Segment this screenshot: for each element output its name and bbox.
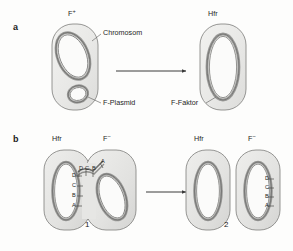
stage-number-2: 2 xyxy=(224,221,228,229)
chromosome-label: Chromosom xyxy=(103,29,142,36)
recipient-gene-c: C xyxy=(265,185,269,191)
donor-gene-b: B xyxy=(72,193,76,199)
panel-letter-b: b xyxy=(13,134,19,144)
donor-gene-a: A xyxy=(72,203,76,209)
f-plus-cell-shape xyxy=(49,24,98,110)
f-minus-result-label: F− xyxy=(248,135,256,142)
f-plus-cell-label: F+ xyxy=(68,10,76,17)
bridge-gene-a: A xyxy=(101,159,105,165)
hfr-result-cell-shape xyxy=(186,150,230,230)
hfr-cell-label: Hfr xyxy=(208,10,218,17)
bridge-gene-b: B xyxy=(92,166,96,172)
conjugation-pair-shape xyxy=(44,150,136,230)
f-minus-result-cell-shape xyxy=(236,150,280,230)
donor-gene-d: D xyxy=(72,173,76,179)
f-minus-recipient-label: F− xyxy=(103,135,111,142)
panel-letter-a: a xyxy=(13,22,18,32)
recipient-gene-a: A xyxy=(265,203,269,209)
diagram-graphics xyxy=(0,0,293,251)
hfr-donor-label: Hfr xyxy=(52,135,62,142)
bridge-gene-c: C xyxy=(85,166,89,172)
f-faktor-label: F-Faktor xyxy=(171,99,198,106)
figure-canvas: a b F+ Hfr Chromosom F-Plasmid F-Faktor … xyxy=(0,0,293,251)
donor-gene-c: C xyxy=(72,183,76,189)
recipient-gene-b: B xyxy=(265,194,269,200)
hfr-cell-shape xyxy=(200,24,246,110)
stage-number-1: 1 xyxy=(85,221,89,229)
bridge-gene-d: D xyxy=(79,166,83,172)
recipient-gene-d: D xyxy=(265,176,269,182)
f-plasmid-label: F-Plasmid xyxy=(103,99,135,106)
hfr-result-label: Hfr xyxy=(194,135,204,142)
